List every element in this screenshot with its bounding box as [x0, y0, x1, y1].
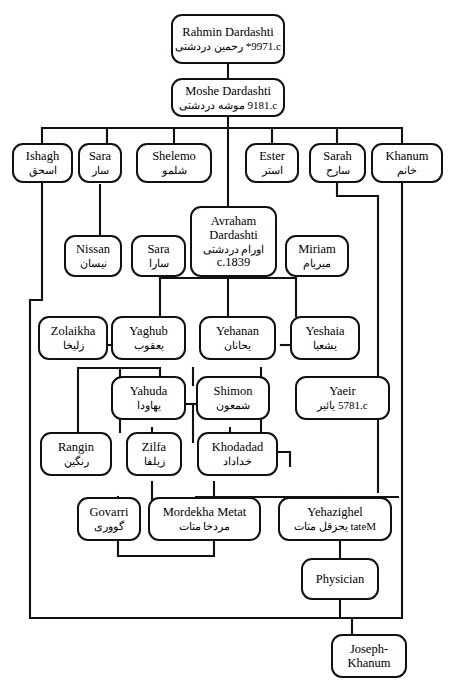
node-birth-year: c.1839: [217, 255, 251, 269]
node-name-fa: c.1875 یائیر: [317, 399, 367, 411]
node-name-fa: سارح: [326, 164, 350, 176]
node-name-en: Sarah: [323, 149, 351, 163]
node-yaeir[interactable]: Yaeir c.1875 یائیر: [295, 376, 390, 420]
node-name-en: Sara: [89, 149, 111, 163]
node-name-fa: شلمو: [162, 164, 187, 176]
node-shelemo[interactable]: Shelemo شلمو: [136, 143, 212, 183]
node-name-en: Mordekha Metat: [163, 505, 247, 519]
node-name-en: Shelemo: [152, 149, 196, 163]
node-name-fa: یشعیا: [313, 339, 337, 351]
node-name-fa: c.1799* رحمین دردشتی: [175, 40, 281, 52]
node-name-en: Yahuda: [130, 384, 168, 398]
node-name-fa: یهاودا: [137, 399, 161, 411]
node-mordekha-metat[interactable]: Mordekha Metat مردخا متات: [148, 497, 261, 541]
node-name-en: Zolaikha: [51, 324, 95, 338]
node-name-fa: سار: [92, 164, 109, 176]
node-name-en: Shimon: [214, 384, 253, 398]
node-surname-en: Dardashti: [209, 228, 258, 242]
node-name-fa: خداداد: [223, 455, 252, 467]
node-govarri[interactable]: Govarri گووری: [77, 497, 141, 541]
node-yehanan[interactable]: Yehanan یحانان: [199, 316, 276, 360]
node-name-en: Rangin: [58, 440, 94, 454]
node-yahuda[interactable]: Yahuda یهاودا: [111, 376, 186, 420]
node-name-en: Avraham: [211, 214, 257, 228]
node-name-en: Sara: [147, 242, 169, 256]
node-zilfa[interactable]: Zilfa زیلفا: [126, 432, 182, 476]
node-name-en: Khanum: [385, 149, 428, 163]
node-yaghub[interactable]: Yaghub یعقوب: [111, 316, 186, 360]
node-name-fa: زیلفا: [144, 455, 165, 467]
node-name-fa: نیسان: [80, 257, 107, 269]
node-name-en: Moshe Dardashti: [185, 84, 271, 98]
node-sarah[interactable]: Sarah سارح: [309, 143, 366, 183]
node-name-en: Yehanan: [216, 324, 259, 338]
node-name-fa: خانم: [397, 164, 417, 176]
node-sara-2[interactable]: Sara سارا: [131, 235, 186, 277]
node-name-fa: زلیخا: [63, 339, 84, 351]
node-name-en: Yehazighel: [307, 505, 363, 519]
node-name-en: Zilfa: [142, 440, 166, 454]
node-moshe-dardashti[interactable]: Moshe Dardashti c.1819 موشه دردشتی: [171, 78, 285, 117]
node-name-en: Khodadad: [212, 440, 263, 454]
node-khanum[interactable]: Khanum خانم: [371, 143, 443, 183]
node-name-fa: رنگین: [64, 455, 89, 467]
node-name-fa: گووری: [94, 520, 124, 532]
node-name-en: Yeshaia: [305, 324, 344, 338]
node-name-en: Rahmin Dardashti: [182, 25, 273, 39]
node-joseph-khanum[interactable]: Joseph- Khanum: [331, 634, 407, 678]
node-name-fa: استر: [262, 164, 283, 176]
node-shimon[interactable]: Shimon شمعون: [196, 376, 270, 420]
node-yeshaia[interactable]: Yeshaia یشعیا: [290, 316, 360, 360]
node-zolaikha[interactable]: Zolaikha زلیخا: [38, 316, 108, 360]
family-tree-diagram: Rahmin Dardashti c.1799* رحمین دردشتی Mo…: [0, 0, 456, 682]
node-name-fa: مردخا متات: [179, 520, 231, 532]
node-physician[interactable]: Physician: [301, 558, 379, 600]
node-ishagh[interactable]: Ishagh اسحق: [12, 143, 73, 183]
node-avraham-dardashti[interactable]: Avraham Dardashti اورام دردشتی c.1839: [190, 206, 277, 277]
node-rahmin-dardashti[interactable]: Rahmin Dardashti c.1799* رحمین دردشتی: [171, 14, 285, 64]
node-name-fa: c.1819 موشه دردشتی: [179, 99, 277, 111]
node-name-fa: اورام دردشتی: [203, 243, 265, 255]
node-name-en: Ishagh: [26, 149, 59, 163]
node-ester[interactable]: Ester استر: [245, 143, 299, 183]
node-nissan[interactable]: Nissan نیسان: [64, 235, 122, 277]
node-name-fa: سارا: [149, 257, 169, 269]
node-name-fa: Metat یحزقل متات: [294, 520, 376, 532]
node-name-en: Joseph-: [350, 642, 388, 656]
node-name-en: Yaeir: [329, 384, 356, 398]
node-name-en: Physician: [316, 572, 365, 586]
node-name-en: Govarri: [90, 505, 129, 519]
node-name-en: Yaghub: [129, 324, 167, 338]
node-name-fa: یعقوب: [134, 339, 164, 351]
node-name-fa: میریام: [303, 257, 331, 269]
node-name-en: Nissan: [76, 242, 110, 256]
node-name-en: Ester: [259, 149, 285, 163]
node-name-fa: یحانان: [224, 339, 251, 351]
node-name-fa: شمعون: [216, 399, 250, 411]
node-khodadad[interactable]: Khodadad خداداد: [197, 432, 278, 476]
node-yehazighel-metat[interactable]: Yehazighel Metat یحزقل متات: [278, 497, 392, 541]
node-miriam[interactable]: Miriam میریام: [285, 235, 349, 277]
node-sara-1[interactable]: Sara سار: [78, 143, 122, 183]
node-name-fa: اسحق: [29, 164, 57, 176]
node-name-en: Miriam: [298, 242, 336, 256]
node-rangin[interactable]: Rangin رنگین: [40, 432, 112, 476]
node-name-en-2: Khanum: [347, 656, 390, 670]
